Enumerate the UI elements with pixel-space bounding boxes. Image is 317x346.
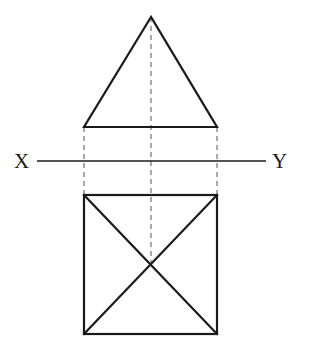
projection-diagram: X Y: [0, 0, 317, 346]
label-y: Y: [272, 149, 287, 173]
projector-lines: [84, 17, 217, 264]
label-x: X: [14, 149, 29, 173]
